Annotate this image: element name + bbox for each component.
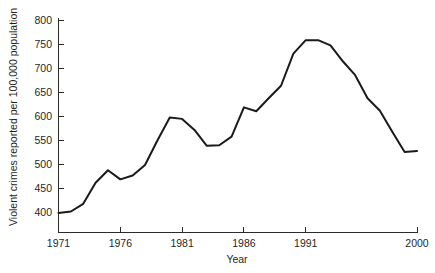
y-tick-label: 700 bbox=[34, 62, 52, 74]
x-axis-title: Year bbox=[226, 253, 248, 265]
axis-lines bbox=[59, 18, 418, 233]
y-tick-label: 400 bbox=[34, 206, 52, 218]
x-tick-label: 1986 bbox=[232, 237, 256, 249]
y-axis-title: Violent crimes reported per 100,000 popu… bbox=[7, 8, 19, 226]
y-tick-label: 800 bbox=[34, 14, 52, 26]
y-tick-label: 750 bbox=[34, 38, 52, 50]
axis-tick-marks bbox=[59, 20, 418, 233]
y-axis-tick-labels: 400450500550600650700750800 bbox=[34, 14, 52, 218]
x-tick-label: 2000 bbox=[405, 237, 429, 249]
y-tick-label: 450 bbox=[34, 182, 52, 194]
x-tick-label: 1981 bbox=[170, 237, 194, 249]
x-tick-label: 1971 bbox=[47, 237, 71, 249]
y-tick-label: 500 bbox=[34, 158, 52, 170]
x-tick-label: 1991 bbox=[294, 237, 318, 249]
chart-container: Violent crimes reported per 100,000 popu… bbox=[0, 0, 435, 273]
y-tick-label: 650 bbox=[34, 86, 52, 98]
line-chart-plot: Violent crimes reported per 100,000 popu… bbox=[0, 0, 435, 273]
y-tick-label: 550 bbox=[34, 134, 52, 146]
x-tick-label: 1976 bbox=[109, 237, 133, 249]
x-axis-tick-labels: 197119761981198619912000 bbox=[47, 237, 429, 249]
series-line-violent-crime-rate bbox=[59, 40, 418, 213]
y-tick-label: 600 bbox=[34, 110, 52, 122]
